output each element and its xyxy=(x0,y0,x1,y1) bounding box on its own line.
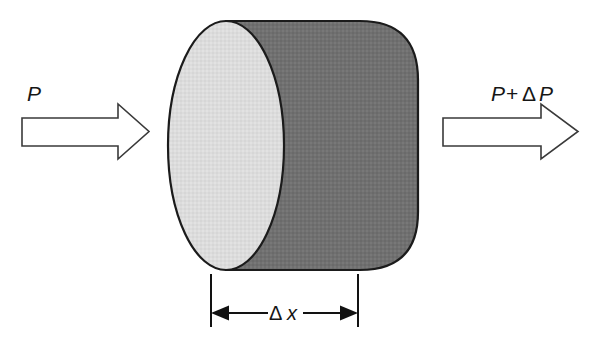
outlet-pressure-label: P + Δ P xyxy=(491,82,553,105)
outlet-arrow xyxy=(443,104,578,159)
thickness-dimension: Δ x xyxy=(211,274,358,327)
diagram-canvas: P P + Δ P Δ x xyxy=(0,0,589,342)
cylinder-shape xyxy=(168,21,418,270)
dimension-arrowhead-left xyxy=(211,306,229,321)
thickness-delta-symbol: Δ xyxy=(269,302,282,324)
cylinder-front-face xyxy=(168,21,284,270)
inlet-arrow xyxy=(22,104,149,159)
inlet-pressure-label: P xyxy=(27,82,41,105)
thickness-x-symbol: x xyxy=(286,302,298,324)
outlet-pressure-p2: P xyxy=(539,82,553,105)
outlet-pressure-delta-symbol: Δ xyxy=(522,82,536,105)
outlet-pressure-plus: + xyxy=(506,82,518,105)
thickness-label: Δ x xyxy=(269,302,298,324)
outlet-arrow-shape xyxy=(443,104,578,159)
physics-diagram-figure: P P + Δ P Δ x xyxy=(0,0,589,342)
inlet-arrow-shape xyxy=(22,104,149,159)
dimension-arrowhead-right xyxy=(340,306,358,321)
outlet-pressure-p: P xyxy=(491,82,505,105)
